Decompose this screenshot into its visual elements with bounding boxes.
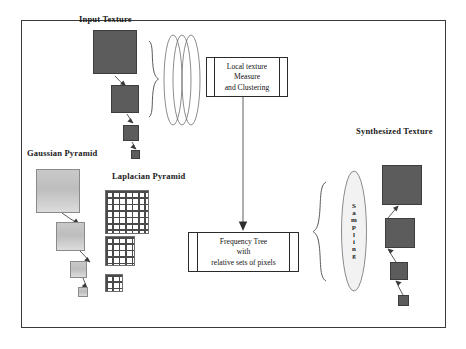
input-texture-brace: [149, 41, 159, 117]
gaussian-level-3: [70, 261, 87, 278]
label-synthesized-texture: Synthesized Texture: [356, 126, 433, 136]
feature-plane-ellipses: [164, 35, 200, 125]
frequency-tree-line-1: Frequency Tree: [188, 237, 299, 247]
input-texture-level-4: [131, 150, 140, 159]
input-texture-level-1: [93, 30, 137, 74]
local-texture-line-2: Measure: [206, 72, 288, 82]
measure-to-frequency-tree-arrow: [239, 97, 247, 231]
frequency-tree-text: Frequency Tree with relative sets of pix…: [188, 237, 299, 268]
frequency-tree-line-2: with: [188, 247, 299, 257]
gaussian-level-2: [56, 222, 85, 251]
label-gaussian-pyramid: Gaussian Pyramid: [27, 148, 98, 158]
input-texture-level-3: [123, 125, 139, 141]
local-texture-measure-text: Local texture Measure and Clustering: [206, 62, 288, 93]
local-texture-line-1: Local texture: [206, 62, 288, 72]
synthesized-level-4: [398, 295, 409, 306]
sampling-label: S a m p l i n g: [347, 203, 361, 260]
synthesized-level-2: [385, 218, 415, 248]
sampling-letter-8: g: [347, 253, 361, 260]
local-texture-line-3: and Clustering: [206, 83, 288, 93]
laplacian-level-3: [105, 274, 123, 292]
synthesized-level-1: [382, 165, 422, 205]
label-laplacian-pyramid: Laplacian Pyramid: [112, 171, 186, 181]
label-input-texture: Input Texture: [79, 14, 132, 24]
frequency-tree-brace: [313, 182, 326, 281]
synthesized-level-3: [390, 262, 408, 280]
gaussian-level-4: [78, 287, 88, 297]
laplacian-level-2: [105, 236, 135, 266]
diagram-canvas: Input Texture Gaussian Pyramid Laplacian…: [0, 0, 466, 349]
input-texture-level-2: [111, 85, 139, 113]
gaussian-level-1: [36, 169, 80, 213]
frequency-tree-line-3: relative sets of pixels: [188, 258, 299, 268]
laplacian-level-1: [105, 190, 149, 234]
